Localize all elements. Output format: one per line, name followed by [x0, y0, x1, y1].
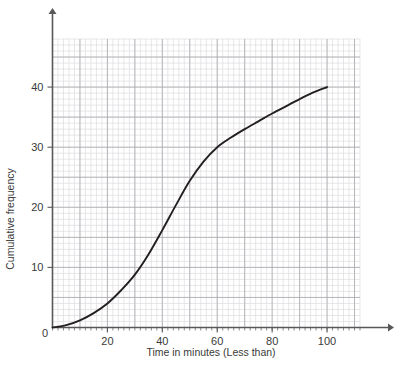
- x-tick-label-40: 40: [156, 335, 168, 347]
- chart-background: [0, 0, 395, 365]
- y-tick-label-10: 10: [31, 261, 43, 273]
- x-tick-label-20: 20: [101, 335, 113, 347]
- x-tick-label-80: 80: [266, 335, 278, 347]
- chart-canvas: 2040608010010203040 Time in minutes (Les…: [0, 0, 395, 365]
- y-tick-label-30: 30: [31, 141, 43, 153]
- y-tick-label-40: 40: [31, 81, 43, 93]
- x-tick-label-100: 100: [318, 335, 336, 347]
- x-axis-title: Time in minutes (Less than): [146, 346, 275, 358]
- cumulative-frequency-chart: 2040608010010203040 Time in minutes (Les…: [0, 0, 395, 365]
- y-axis-title: Cumulative frequency: [4, 167, 16, 269]
- x-tick-label-60: 60: [211, 335, 223, 347]
- origin-tick-label: 0: [42, 327, 48, 339]
- y-tick-label-20: 20: [31, 201, 43, 213]
